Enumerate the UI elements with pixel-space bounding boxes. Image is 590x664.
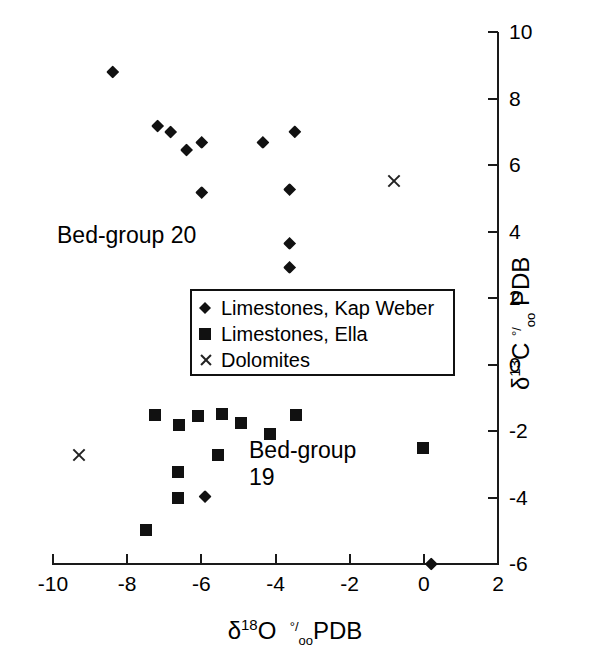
data-point-square xyxy=(172,466,184,478)
legend-box: Limestones, Kap Weber Limestones, Ella D… xyxy=(190,289,455,376)
x-tick xyxy=(52,554,54,563)
legend-item-limestones-kap-weber: Limestones, Kap Weber xyxy=(199,295,447,321)
diamond-icon xyxy=(199,302,221,314)
data-point-diamond xyxy=(283,237,296,250)
y-title-delta: δ xyxy=(507,377,534,390)
data-point-diamond xyxy=(195,186,208,199)
x-tick xyxy=(349,554,351,563)
cross-icon xyxy=(199,353,221,367)
x-title-permil: °/oo xyxy=(290,619,313,648)
y-tick xyxy=(488,297,498,299)
data-point-diamond xyxy=(283,183,296,196)
x-tick-label: -8 xyxy=(118,572,137,596)
y-tick xyxy=(488,98,498,100)
data-point-square xyxy=(212,449,224,461)
data-point-cross xyxy=(71,447,87,463)
legend-item-limestones-ella: Limestones, Ella xyxy=(199,321,447,347)
data-point-diamond xyxy=(151,120,164,133)
data-point-diamond xyxy=(195,136,208,149)
y-tick xyxy=(488,231,498,233)
y-title-superscript: 13 xyxy=(506,360,523,377)
x-tick xyxy=(200,554,202,563)
data-point-square xyxy=(192,410,204,422)
annotation-bed-group-20: Bed-group 20 xyxy=(57,222,196,249)
x-tick-label: 2 xyxy=(492,572,504,596)
y-title-element: C xyxy=(507,343,534,360)
x-tick-label: 0 xyxy=(418,572,430,596)
y-tick xyxy=(488,164,498,166)
data-point-square xyxy=(216,408,228,420)
x-axis-title: δ18O °/ooPDB xyxy=(0,616,590,647)
y-tick xyxy=(488,563,498,565)
data-point-cross xyxy=(386,173,402,189)
permil-degree: °/ xyxy=(290,619,299,634)
y-tick-label: 10 xyxy=(509,20,532,44)
data-point-diamond xyxy=(288,125,301,138)
y-title-permil: °/oo xyxy=(509,313,538,336)
data-point-square xyxy=(173,419,185,431)
data-point-diamond xyxy=(199,490,212,503)
data-point-square xyxy=(290,409,302,421)
permil-degree: °/ xyxy=(509,327,524,336)
data-point-diamond xyxy=(256,136,269,149)
y-tick-label: -4 xyxy=(509,486,528,510)
annotation-bed-group-19: Bed-group 19 xyxy=(249,437,356,491)
y-tick-label: -2 xyxy=(509,419,528,443)
y-axis-title: δ13C °/oo PDB xyxy=(506,150,537,390)
data-point-diamond xyxy=(425,558,438,571)
y-tick xyxy=(488,497,498,499)
data-point-square xyxy=(149,409,161,421)
x-tick-label: -10 xyxy=(38,572,68,596)
y-tick xyxy=(488,364,498,366)
data-point-diamond xyxy=(164,126,177,139)
x-tick-label: -4 xyxy=(266,572,285,596)
x-tick-label: -2 xyxy=(340,572,359,596)
x-tick xyxy=(126,554,128,563)
x-tick xyxy=(497,554,499,563)
y-tick xyxy=(488,430,498,432)
x-tick xyxy=(423,554,425,563)
legend-item-dolomites: Dolomites xyxy=(199,347,447,373)
y-title-suffix: PDB xyxy=(507,257,534,306)
legend-label: Dolomites xyxy=(221,349,310,372)
x-title-suffix: PDB xyxy=(313,617,362,644)
y-tick-label: 8 xyxy=(509,87,521,111)
x-tick-label: -6 xyxy=(192,572,211,596)
legend-label: Limestones, Kap Weber xyxy=(221,297,434,320)
data-point-diamond xyxy=(283,261,296,274)
scatter-plot-figure: -10-8-6-4-202 -6-4-20246810 Bed-group 20… xyxy=(0,0,590,664)
data-point-square xyxy=(140,524,152,536)
data-point-square xyxy=(172,492,184,504)
square-icon xyxy=(199,328,221,340)
legend-label: Limestones, Ella xyxy=(221,323,368,346)
x-title-delta: δ xyxy=(228,617,241,644)
data-point-square xyxy=(417,442,429,454)
permil-oo: oo xyxy=(299,632,313,647)
data-point-square xyxy=(235,417,247,429)
data-point-diamond xyxy=(180,144,193,157)
y-tick xyxy=(488,31,498,33)
data-point-diamond xyxy=(106,65,119,78)
x-title-element: O xyxy=(258,617,277,644)
x-title-superscript: 18 xyxy=(241,616,258,633)
permil-oo: oo xyxy=(522,313,537,327)
y-tick-label: -6 xyxy=(509,552,528,576)
x-tick xyxy=(275,554,277,563)
